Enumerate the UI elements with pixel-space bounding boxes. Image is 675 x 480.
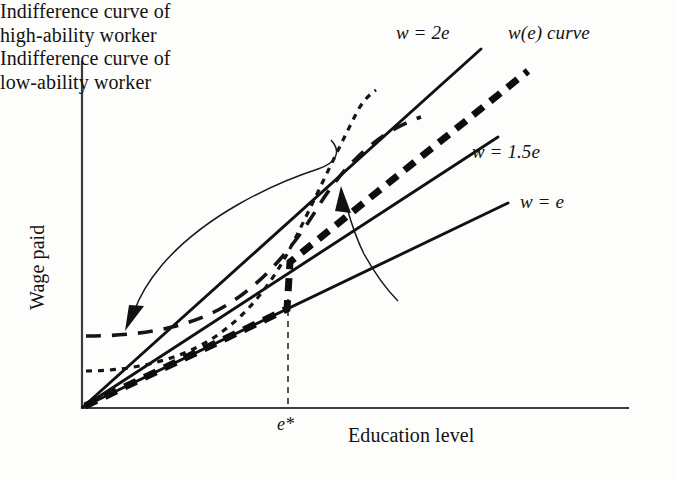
line-w-equals-1-5e	[83, 137, 498, 407]
annotation-low-ability-line1: Indifference curve of	[0, 47, 675, 71]
arrowhead-low-ability	[335, 186, 351, 213]
x-axis-title: Education level	[348, 424, 474, 448]
annotation-high-ability-line2: high-ability worker	[0, 24, 675, 48]
signaling-diagram: Wage paid Education level e* w = 2e w(e)…	[0, 0, 675, 480]
leader-line-high-ability	[134, 140, 337, 312]
leader-high-ability	[125, 140, 337, 331]
arrowhead-high-ability	[125, 305, 144, 331]
x-tick-label-e-star: e*	[277, 414, 294, 435]
annotation-high-ability-line1: Indifference curve of	[0, 0, 675, 24]
leader-line-low-ability	[347, 208, 398, 301]
y-axis-title: Wage paid	[26, 225, 50, 310]
leader-low-ability	[335, 186, 398, 301]
label-w-equals-1-5e: w = 1.5e	[472, 141, 540, 163]
curve-w-of-e	[85, 71, 528, 406]
indifference-curve-low-ability	[86, 90, 376, 371]
line-w-equals-2e	[83, 49, 481, 407]
label-w-equals-e: w = e	[520, 191, 564, 213]
annotation-low-ability: Indifference curve of low-ability worker	[0, 47, 675, 94]
annotation-low-ability-line2: low-ability worker	[0, 71, 675, 95]
annotation-high-ability: Indifference curve of high-ability worke…	[0, 0, 675, 47]
